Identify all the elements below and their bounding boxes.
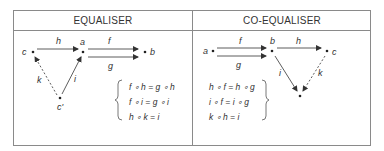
label-b: b [270, 36, 275, 46]
node-a [212, 50, 215, 53]
node-c-prime [299, 95, 302, 98]
label-a: a [80, 37, 85, 47]
left-brace [115, 80, 122, 120]
arrow-label-k: k [318, 68, 323, 78]
arrow-i [62, 57, 81, 94]
equation: i ∘ f = i ∘ g [209, 95, 255, 110]
arrow-label-g: g [108, 61, 113, 71]
arrow-label-h: h [296, 36, 301, 46]
label-c: c [332, 47, 337, 57]
node-c [32, 51, 35, 54]
equation: f ∘ h = g ∘ h [129, 80, 175, 95]
label-c-prime: c' [57, 102, 64, 112]
label-c: c [22, 47, 27, 57]
equation: k ∘ h = i [209, 110, 255, 125]
co-equaliser-equations: h ∘ f = h ∘ g i ∘ f = i ∘ g k ∘ h = i [209, 80, 255, 125]
arrow-label-f: f [239, 36, 243, 46]
node-a [82, 51, 85, 54]
arrow-label-h: h [56, 36, 61, 46]
node-c [326, 50, 329, 53]
arrow-label-f: f [108, 36, 112, 46]
equation: h ∘ f = h ∘ g [209, 80, 255, 95]
label-b: b [150, 47, 155, 57]
node-b [271, 50, 274, 53]
right-brace [262, 80, 269, 120]
diagrams: c a b c' h f g i k a b c f g [0, 0, 384, 151]
equation: f ∘ i = g ∘ i [129, 95, 175, 110]
node-c-prime [59, 97, 62, 100]
node-b [144, 51, 147, 54]
label-a: a [203, 46, 208, 56]
equaliser-equations: f ∘ h = g ∘ h f ∘ i = g ∘ i h ∘ k = i [129, 80, 175, 125]
arrow-label-k: k [37, 75, 42, 85]
arrow-label-i: i [279, 68, 282, 78]
equation: h ∘ k = i [129, 110, 175, 125]
arrow-label-g: g [236, 60, 241, 70]
arrow-label-i: i [74, 74, 77, 84]
